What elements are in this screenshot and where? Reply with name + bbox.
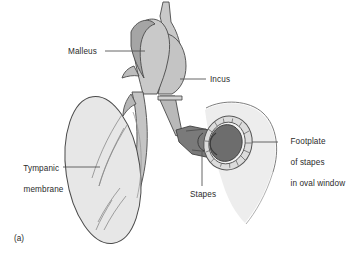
label-footplate-line1: Footplate xyxy=(291,137,326,146)
label-stapes: Stapes xyxy=(190,190,216,201)
anatomical-figure: Tympanic membrane Malleus Incus Footplat… xyxy=(0,0,360,272)
label-tympanic-line2: membrane xyxy=(24,185,64,194)
label-tympanic-membrane: Tympanic membrane xyxy=(14,153,63,206)
label-tympanic-line1: Tympanic xyxy=(23,164,59,173)
label-footplate-line2: of stapes xyxy=(291,158,325,167)
figure-number: (a) xyxy=(14,234,24,243)
label-malleus: Malleus xyxy=(68,47,97,58)
label-incus: Incus xyxy=(210,75,230,86)
label-footplate: Footplate of stapes in oval window xyxy=(281,126,345,200)
label-footplate-line3: in oval window xyxy=(291,179,346,188)
